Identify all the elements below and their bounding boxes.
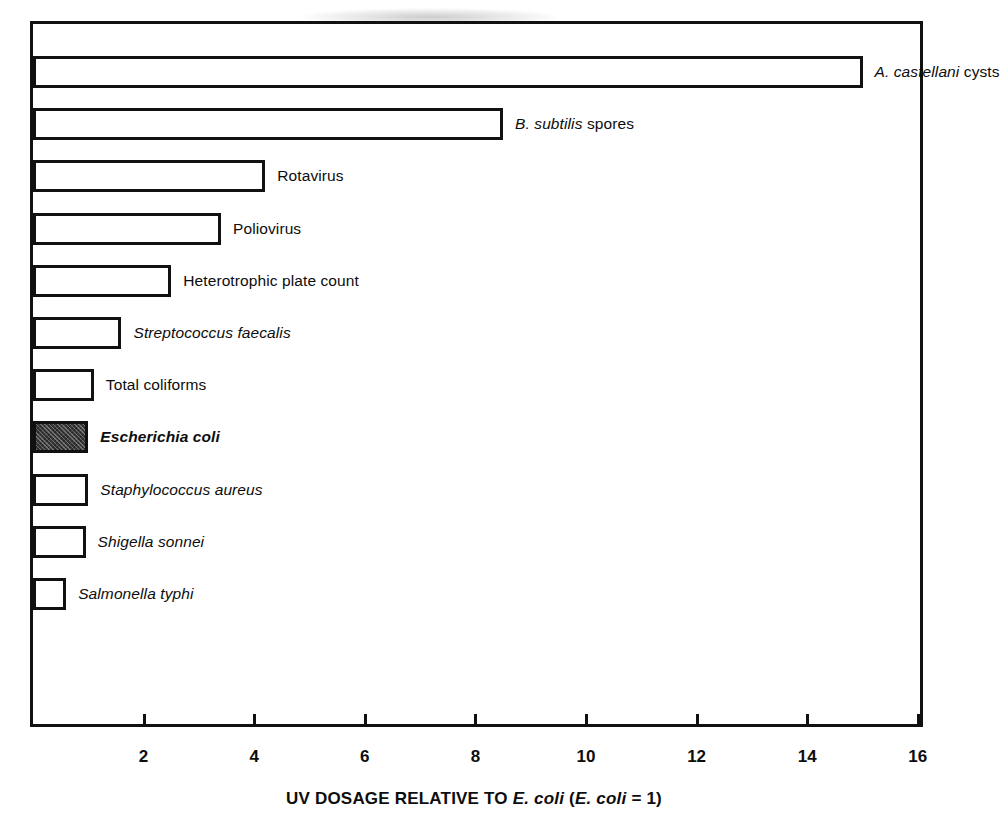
bar-salmonella-typhi[interactable] [33,578,66,610]
bar-row-shigella-sonnei: Shigella sonnei [33,526,506,558]
label-part: Heterotrophic plate count [183,272,359,289]
tick-label-8: 8 [455,747,495,767]
tick-mark-2 [143,714,146,725]
bar-row-b-subtilis-spores: B. subtilis spores [33,108,923,140]
bar-row-rotavirus: Rotavirus [33,160,685,192]
bar-escherichia-coli[interactable] [33,421,88,453]
label-part: Escherichia coli [100,429,220,446]
tick-mark-4 [253,714,256,725]
label-part: Streptococcus faecalis [133,324,290,341]
tick-mark-8 [474,714,477,725]
bar-label-escherichia-coli: Escherichia coli [100,430,220,446]
x-axis-title: UV DOSAGE RELATIVE TO E. coli (E. coli =… [0,789,948,809]
bar-label-a-castellani-cysts: A. castellani cysts [875,64,1000,80]
bar-label-streptococcus-faecalis: Streptococcus faecalis [133,325,290,341]
bar-label-b-subtilis-spores: B. subtilis spores [515,116,634,132]
bar-b-subtilis-spores[interactable] [33,108,503,140]
label-part: Poliovirus [233,220,301,237]
bar-label-total-coliforms: Total coliforms [106,377,207,393]
tick-label-10: 10 [566,747,606,767]
label-part: A. castellani [875,63,960,80]
bar-rotavirus[interactable] [33,160,265,192]
label-part: cysts [959,63,999,80]
axis-title-mid: ( [564,789,575,808]
tick-mark-10 [585,714,588,725]
label-part: Staphylococcus aureus [100,481,262,498]
tick-mark-14 [806,714,809,725]
bar-label-poliovirus: Poliovirus [233,221,301,237]
bar-row-staphylococcus-aureus: Staphylococcus aureus [33,474,508,506]
bar-a-castellani-cysts[interactable] [33,56,863,88]
bar-label-shigella-sonnei: Shigella sonnei [98,534,205,550]
tick-label-16: 16 [898,747,938,767]
tick-mark-12 [696,714,699,725]
bar-heterotrophic-plate-count[interactable] [33,265,171,297]
bar-row-salmonella-typhi: Salmonella typhi [33,578,486,610]
bar-label-rotavirus: Rotavirus [277,169,343,185]
bar-streptococcus-faecalis[interactable] [33,317,121,349]
bar-row-poliovirus: Poliovirus [33,213,641,245]
label-part: Salmonella typhi [78,585,193,602]
axis-title-italic-2: E. coli [575,789,626,808]
bar-total-coliforms[interactable] [33,369,94,401]
tick-label-12: 12 [677,747,717,767]
bar-row-heterotrophic-plate-count: Heterotrophic plate count [33,265,591,297]
bar-staphylococcus-aureus[interactable] [33,474,88,506]
label-part: spores [582,115,634,132]
bar-row-total-coliforms: Total coliforms [33,369,514,401]
tick-label-14: 14 [787,747,827,767]
label-part: Rotavirus [277,168,343,185]
tick-mark-16 [917,714,920,725]
tick-label-6: 6 [345,747,385,767]
tick-label-2: 2 [124,747,164,767]
bar-label-staphylococcus-aureus: Staphylococcus aureus [100,482,262,498]
axis-title-prefix: UV DOSAGE RELATIVE TO [286,789,513,808]
bar-shigella-sonnei[interactable] [33,526,86,558]
label-part: B. subtilis [515,115,582,132]
tick-label-4: 4 [234,747,274,767]
tick-mark-6 [364,714,367,725]
bar-row-escherichia-coli: Escherichia coli [33,421,508,453]
bar-row-a-castellani-cysts: A. castellani cysts [33,56,1004,88]
bar-label-heterotrophic-plate-count: Heterotrophic plate count [183,273,359,289]
label-part: Shigella sonnei [98,533,205,550]
bar-label-salmonella-typhi: Salmonella typhi [78,586,193,602]
axis-title-italic-1: E. coli [513,789,564,808]
bar-poliovirus[interactable] [33,213,221,245]
label-part: Total coliforms [106,376,207,393]
bar-row-streptococcus-faecalis: Streptococcus faecalis [33,317,541,349]
axis-title-suffix: = 1) [626,789,662,808]
